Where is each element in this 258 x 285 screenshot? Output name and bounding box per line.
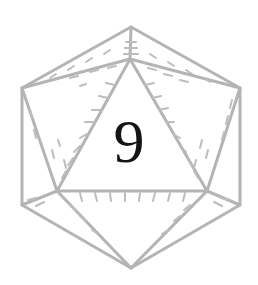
face-value: 9 (0, 110, 258, 172)
d20-die: 9 (0, 0, 258, 285)
